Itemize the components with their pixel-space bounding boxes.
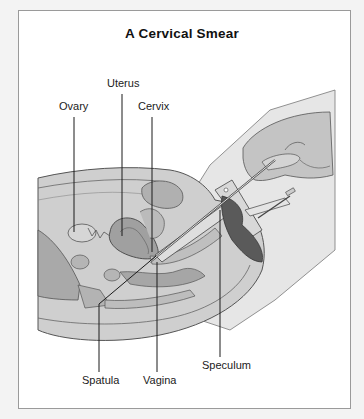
label-spatula: Spatula (82, 374, 119, 386)
label-speculum: Speculum (202, 359, 251, 371)
label-cervix: Cervix (138, 100, 169, 112)
cervical-smear-illustration (0, 0, 364, 419)
label-vagina: Vagina (143, 374, 176, 386)
label-uterus: Uterus (107, 77, 139, 89)
label-ovary: Ovary (59, 100, 88, 112)
